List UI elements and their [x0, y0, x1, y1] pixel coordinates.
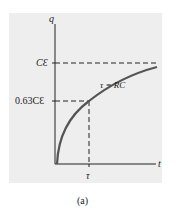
x-axis-label: t [158, 159, 161, 169]
ce63-label: 0.63CƐ [15, 96, 44, 106]
ce-label: CƐ [36, 58, 48, 68]
figure-caption: (a) [77, 196, 88, 206]
tau-rc-annotation: τ = RC [100, 81, 125, 90]
y-axis-label: q [49, 14, 54, 24]
tau-tick-label: τ [86, 171, 90, 181]
